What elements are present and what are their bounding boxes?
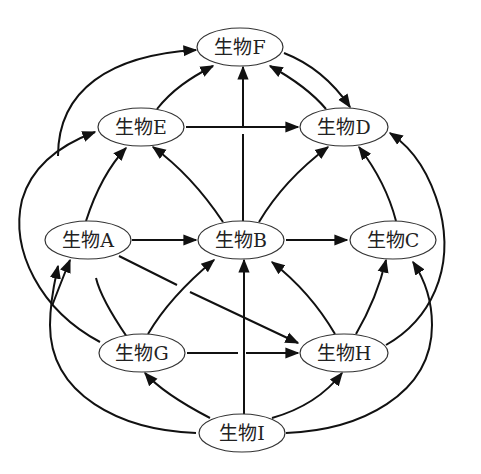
edge-B-to-D xyxy=(259,147,328,222)
edge-G-to-A-left xyxy=(52,260,127,337)
edge-A-to-E xyxy=(86,148,126,221)
edge-B-to-E xyxy=(153,147,223,222)
node-I: 生物I xyxy=(199,414,285,452)
edge-C-to-D xyxy=(359,147,396,221)
food-web-diagram: 生物F 生物E 生物D 生物A 生物B 生物C 生物G 生物H xyxy=(0,0,481,474)
edge-A-to-H xyxy=(119,256,298,343)
edge-I-to-G xyxy=(145,373,210,418)
node-D-label: 生物D xyxy=(317,116,370,138)
node-H-label: 生物H xyxy=(317,342,372,364)
node-D: 生物D xyxy=(300,108,388,146)
node-H: 生物H xyxy=(300,334,388,372)
node-A: 生物A xyxy=(45,221,131,259)
edge-I-to-H xyxy=(272,373,342,418)
node-C-label: 生物C xyxy=(367,229,420,251)
node-F: 生物F xyxy=(197,28,283,66)
node-B: 生物B xyxy=(198,221,284,259)
edge-H-to-C xyxy=(356,260,386,334)
edge-G-to-B xyxy=(148,260,214,334)
node-F-label: 生物F xyxy=(214,36,265,58)
node-I-label: 生物I xyxy=(219,422,265,444)
edge-H-to-B xyxy=(272,262,335,334)
node-G: 生物G xyxy=(99,334,185,372)
node-C: 生物C xyxy=(350,221,436,259)
node-E-label: 生物E xyxy=(115,116,167,138)
node-G-label: 生物G xyxy=(115,342,168,364)
node-A-label: 生物A xyxy=(62,229,114,251)
nodes: 生物F 生物E 生物D 生物A 生物B 生物C 生物G 生物H xyxy=(45,28,436,452)
node-E: 生物E xyxy=(98,108,184,146)
node-B-label: 生物B xyxy=(215,229,267,251)
edge-E-to-F xyxy=(157,66,213,109)
